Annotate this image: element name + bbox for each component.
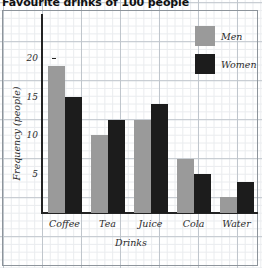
chart-screenshot: Favourite drinks of 100 people 5101520 F… — [0, 0, 262, 268]
x-category-label-cola: Cola — [183, 218, 205, 229]
bar-cola-women — [194, 174, 211, 213]
legend-swatch-women-icon — [195, 54, 215, 74]
bar-tea-men — [91, 135, 108, 213]
y-tick-label: 20 — [27, 53, 38, 63]
y-tick-label: 15 — [27, 92, 38, 102]
legend-label-women: Women — [221, 59, 257, 70]
x-category-label-tea: Tea — [99, 218, 116, 229]
x-category-label-juice: Juice — [139, 218, 163, 229]
x-category-label-water: Water — [222, 218, 251, 229]
bar-water-women — [237, 182, 254, 213]
bar-cola-men — [177, 159, 194, 213]
bar-juice-men — [134, 120, 151, 213]
x-axis-title: Drinks — [115, 237, 147, 248]
x-category-label-coffee: Coffee — [49, 218, 80, 229]
y-tick-label: 5 — [32, 169, 38, 179]
bar-water-men — [220, 197, 237, 213]
bar-tea-women — [108, 120, 125, 213]
bar-coffee-women — [65, 97, 82, 213]
bar-juice-women — [151, 104, 168, 213]
legend-swatch-men-icon — [195, 26, 215, 46]
legend-label-men: Men — [221, 31, 242, 42]
y-tick-label: 10 — [27, 130, 38, 140]
y-axis-title: Frequency (people) — [11, 74, 22, 194]
bar-coffee-men — [48, 66, 65, 213]
